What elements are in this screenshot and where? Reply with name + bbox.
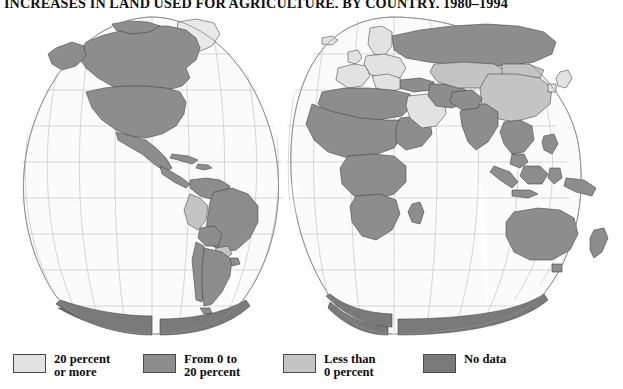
map-legend: 20 percent or more From 0 to 20 percent …: [0, 344, 623, 389]
legend-item-pct0-to-20[interactable]: From 0 to 20 percent: [143, 353, 240, 378]
world-map-plate: [0, 8, 623, 340]
legend-label-pct0-to-20: From 0 to 20 percent: [184, 353, 240, 378]
legend-item-less-than-0[interactable]: Less than 0 percent: [283, 353, 375, 378]
region-japan: [556, 70, 572, 88]
legend-swatch-pct0-to-20: [143, 354, 176, 373]
region-new-zealand: [590, 228, 608, 258]
lobe-split-wedge-atlantic: [284, 184, 298, 328]
legend-swatch-no-data: [423, 354, 456, 373]
agriculture-land-use-map-figure: Increases in Land Used for Agriculture, …: [0, 0, 623, 389]
legend-label-no-data: No data: [464, 353, 506, 366]
legend-label-less-than-0: Less than 0 percent: [324, 353, 375, 378]
legend-swatch-less-than-0: [283, 354, 316, 373]
legend-item-no-data[interactable]: No data: [423, 353, 506, 373]
legend-label-pct20-or-more: 20 percent or more: [54, 353, 110, 378]
legend-item-pct20-or-more[interactable]: 20 percent or more: [13, 353, 110, 378]
world-map-svg: [0, 8, 623, 340]
legend-swatch-pct20-or-more: [13, 354, 46, 373]
